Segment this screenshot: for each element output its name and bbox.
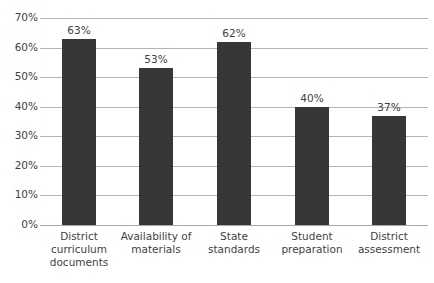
x-axis-category-label-line: standards: [192, 243, 276, 256]
x-axis-category-label-line: State: [192, 230, 276, 243]
x-axis-category-label-line: Student: [270, 230, 354, 243]
bar-value-label: 62%: [199, 27, 269, 39]
bar-value-label: 40%: [277, 92, 347, 104]
bar-value-label: 63%: [44, 24, 114, 36]
x-axis-category-label: Availability ofmaterials: [114, 230, 198, 256]
bar-chart: 0%10%20%30%40%50%60%70% 63%53%62%40%37% …: [0, 0, 434, 283]
x-axis-category-label: Districtassessment: [347, 230, 431, 256]
bar[interactable]: [295, 107, 329, 225]
bar-group: 62%: [217, 0, 251, 225]
bar-value-label: 53%: [121, 53, 191, 65]
x-axis-category-label-line: District: [37, 230, 121, 243]
x-axis-category-label-line: preparation: [270, 243, 354, 256]
x-axis-category-label: Districtcurriculumdocuments: [37, 230, 121, 269]
x-axis-category-label: Studentpreparation: [270, 230, 354, 256]
x-axis-category-label-line: District: [347, 230, 431, 243]
bar-group: 53%: [139, 0, 173, 225]
bar[interactable]: [62, 39, 96, 225]
bar[interactable]: [139, 68, 173, 225]
x-axis-category-label-line: curriculum: [37, 243, 121, 256]
x-axis-category-label-line: documents: [37, 256, 121, 269]
bar[interactable]: [217, 42, 251, 225]
x-axis-category-label-line: Availability of: [114, 230, 198, 243]
x-axis-category-label-line: materials: [114, 243, 198, 256]
bar-group: 40%: [295, 0, 329, 225]
x-axis: DistrictcurriculumdocumentsAvailability …: [0, 230, 434, 283]
x-axis-category-label-line: assessment: [347, 243, 431, 256]
bar[interactable]: [372, 116, 406, 225]
bar-group: 37%: [372, 0, 406, 225]
bar-group: 63%: [62, 0, 96, 225]
x-axis-category-label: Statestandards: [192, 230, 276, 256]
bar-value-label: 37%: [354, 101, 424, 113]
